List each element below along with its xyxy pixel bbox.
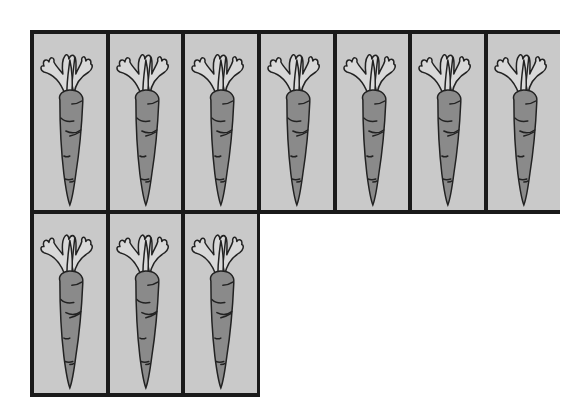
carrot-icon (261, 34, 333, 210)
carrot-icon (488, 34, 560, 210)
grid-row-2 (30, 210, 260, 397)
grid-cell (110, 34, 182, 210)
grid-row-1 (30, 30, 560, 214)
carrot-icon (185, 34, 257, 210)
grid-cell (34, 214, 106, 393)
grid-cell (185, 214, 257, 393)
carrot-icon (110, 34, 182, 210)
carrot-icon (110, 214, 182, 393)
grid-cell (110, 214, 182, 393)
carrot-icon (34, 214, 106, 393)
grid-cell (261, 34, 333, 210)
carrot-icon (412, 34, 484, 210)
grid-cell (337, 34, 409, 210)
grid-cell (488, 34, 560, 210)
carrot-icon (34, 34, 106, 210)
carrot-icon (337, 34, 409, 210)
carrot-icon (185, 214, 257, 393)
grid-cell (412, 34, 484, 210)
grid-cell (34, 34, 106, 210)
grid-cell (185, 34, 257, 210)
